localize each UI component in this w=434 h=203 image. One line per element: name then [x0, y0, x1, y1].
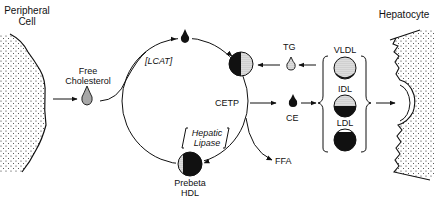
free-cholesterol-droplet-icon	[82, 86, 92, 105]
hepatocyte-shape	[390, 30, 434, 180]
ce-label: CE	[286, 113, 299, 124]
arrow-to-ffa	[246, 118, 272, 160]
vldl-label: VLDL	[330, 45, 360, 56]
prebeta-hdl-particle-icon	[176, 150, 204, 178]
prebeta-hdl-label-line1: Prebeta	[168, 178, 212, 188]
peripheral-cell-label-line2: Cell	[2, 16, 52, 27]
free-cholesterol-label-line1: Free	[60, 66, 116, 76]
vldl-particle-icon	[334, 57, 356, 79]
free-cholesterol-label: Free Cholesterol	[60, 66, 116, 86]
prebeta-hdl-label-line2: HDL	[168, 188, 212, 198]
idl-label: IDL	[330, 84, 360, 95]
ldl-label: LDL	[330, 118, 360, 129]
lcat-enzyme-label: [LCAT]	[145, 56, 172, 67]
hepatic-lipase-label: Hepatic Lipase	[186, 128, 228, 148]
idl-particle-icon	[334, 95, 356, 118]
tg-droplet-icon	[287, 57, 295, 70]
ce-droplet-icon	[289, 94, 297, 107]
peripheral-cell-shape	[0, 34, 46, 172]
cholesterol-ester-droplet-icon	[178, 29, 192, 43]
hepatic-lipase-label-line1: Hepatic	[186, 128, 228, 138]
ffa-label: FFA	[275, 156, 292, 167]
peripheral-cell-label-line1: Peripheral	[2, 5, 52, 16]
prebeta-hdl-label: Prebeta HDL	[168, 178, 212, 198]
ldl-particle-icon	[334, 128, 356, 151]
mature-hdl-particle-icon	[229, 52, 253, 76]
peripheral-cell-label: Peripheral Cell	[2, 5, 52, 27]
hepatocyte-label: Hepatocyte	[374, 9, 434, 20]
cetp-label: CETP	[215, 98, 239, 109]
hepatic-lipase-label-line2: Lipase	[186, 138, 228, 148]
tg-label: TG	[283, 42, 296, 53]
free-cholesterol-label-line2: Cholesterol	[60, 76, 116, 86]
